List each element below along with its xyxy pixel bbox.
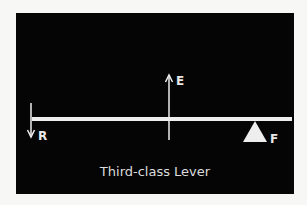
fulcrum-label: F (270, 133, 278, 145)
fulcrum-triangle-icon (243, 121, 267, 142)
effort-arrow-icon (166, 75, 173, 140)
diagram-panel: R E F Third-class Lever (16, 13, 294, 194)
diagram-caption: Third-class Lever (16, 164, 294, 180)
effort-label: E (176, 75, 184, 87)
lever-beam (32, 117, 292, 121)
resistance-label: R (38, 130, 47, 142)
